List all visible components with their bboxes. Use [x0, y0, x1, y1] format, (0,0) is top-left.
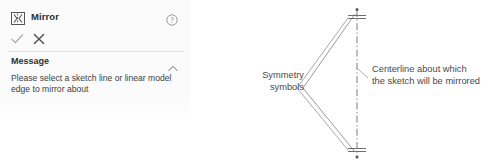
centerline-leader-line [357, 68, 368, 78]
symmetry-symbols-annotation: Symmetry symbols [232, 70, 304, 93]
mirror-icon [11, 11, 25, 24]
centerline-annotation: Centerline about which the sketch will b… [372, 64, 500, 87]
mirror-illustration: Symmetry symbols Centerline about which … [220, 0, 501, 166]
page-title: Mirror [31, 11, 59, 22]
symmetry-leader-lines [297, 18, 348, 150]
symmetry-symbol-bottom [348, 149, 366, 159]
sketch-geometry [303, 14, 355, 152]
chevron-up-icon[interactable] [168, 58, 178, 65]
message-text: Please select a sketch line or linear mo… [11, 73, 179, 95]
close-x-icon[interactable] [33, 31, 45, 43]
checkmark-icon[interactable] [11, 31, 24, 43]
panel-header: Mirror ? [0, 0, 190, 26]
message-section-header[interactable]: Message [0, 54, 190, 70]
panel-action-row [0, 28, 190, 48]
message-section-label: Message [11, 56, 49, 66]
svg-text:?: ? [170, 16, 174, 25]
help-circle-icon[interactable]: ? [166, 12, 178, 24]
panel-divider [8, 51, 184, 52]
mirror-property-panel: Mirror ? Message Please select a [0, 0, 190, 122]
